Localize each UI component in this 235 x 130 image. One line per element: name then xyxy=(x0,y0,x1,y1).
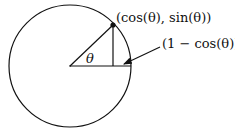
point-label: (cos(θ), sin(θ)) xyxy=(116,10,211,25)
unit-circle-diagram: θ (cos(θ), sin(θ)) (1 − cos(θ)) xyxy=(0,0,235,130)
gap-arrow xyxy=(124,47,160,64)
angle-label: θ xyxy=(86,51,94,66)
gap-label: (1 − cos(θ)) xyxy=(162,36,235,51)
center-dot xyxy=(69,65,71,67)
point-marker xyxy=(110,22,115,27)
